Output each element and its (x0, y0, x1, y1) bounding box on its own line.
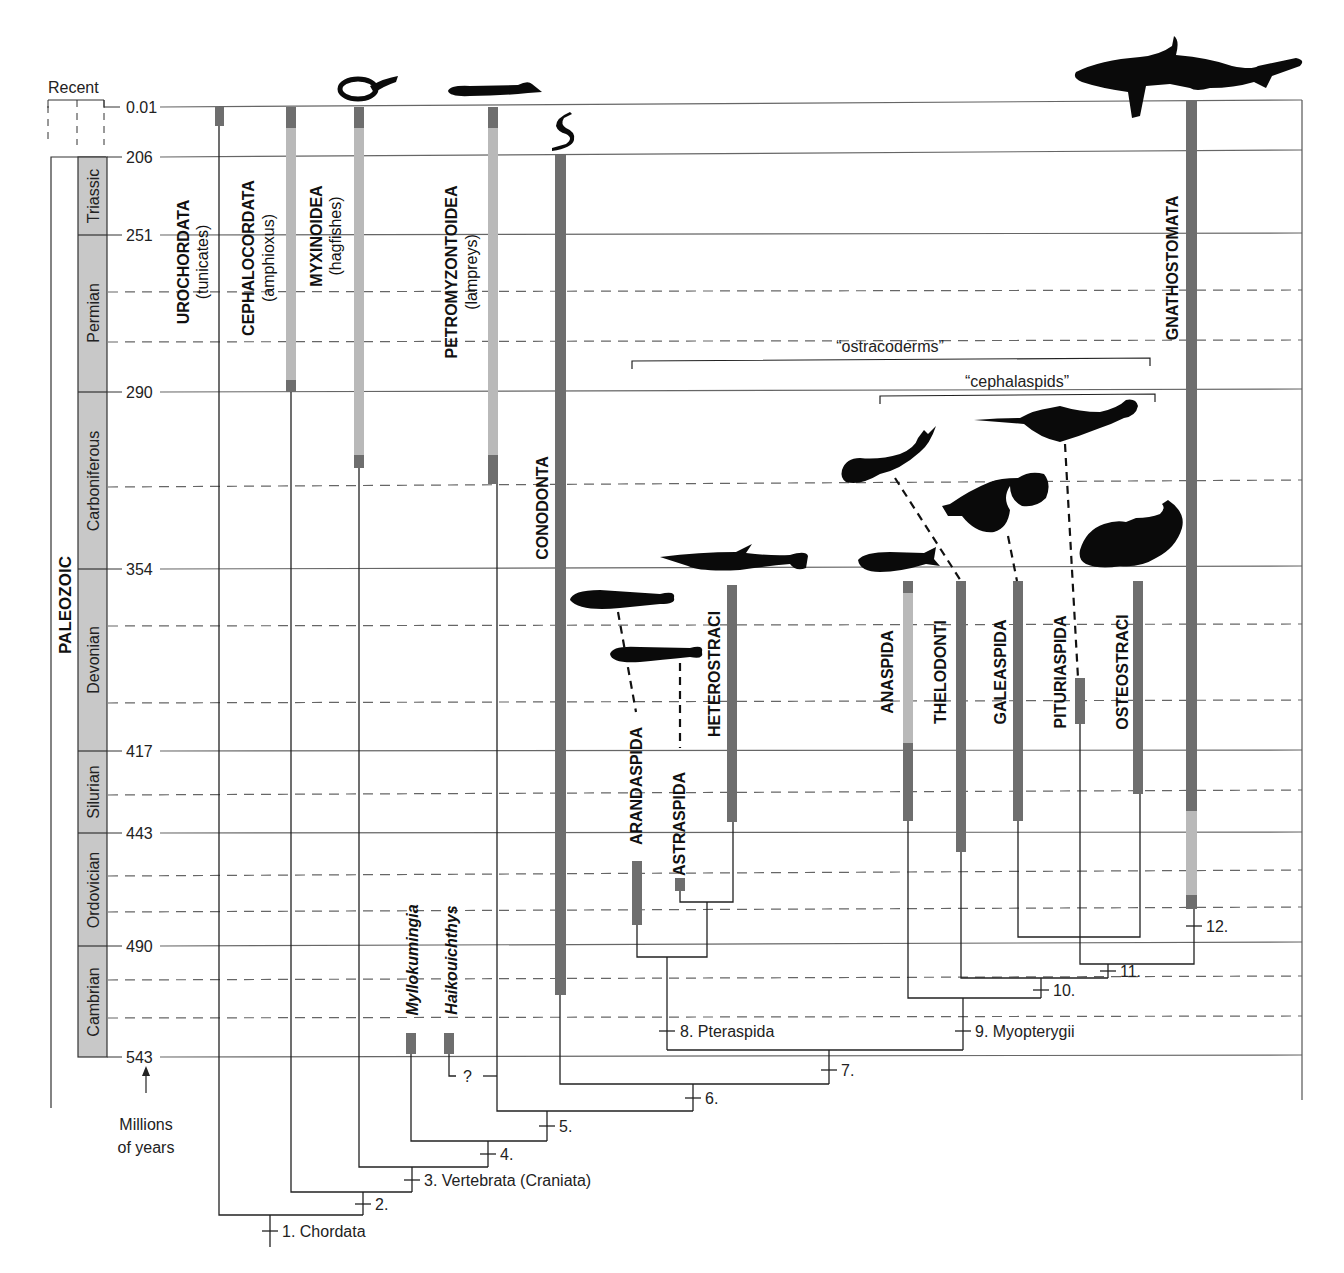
node-4-label: 4. (500, 1146, 513, 1163)
taxon-conodonta: CONODONTA (534, 456, 551, 560)
group-brackets: “ostracoderms” “cephalaspids” (632, 338, 1155, 404)
period-silurian: Silurian (85, 765, 102, 818)
conodont-silhouette-icon (552, 112, 574, 151)
period-devonian: Devonian (85, 626, 102, 694)
period-ordovician: Ordovician (85, 852, 102, 928)
thelodont-silhouette-icon (842, 426, 937, 483)
node-1-label: 1. Chordata (282, 1223, 366, 1240)
taxon-myxinoidea: MYXINOIDEA (308, 185, 325, 287)
tick-label: 543 (126, 1049, 153, 1066)
taxon-gnathostomata: GNATHOSTOMATA (1164, 195, 1181, 340)
taxon-osteostraci: OSTEOSTRACI (1114, 614, 1131, 730)
taxon-anaspida: ANASPIDA (879, 630, 896, 714)
node-2-label: 2. (375, 1196, 388, 1213)
tick-label: 206 (126, 149, 153, 166)
node-12-label: 12. (1206, 918, 1228, 935)
axis-label: Millions (119, 1116, 172, 1133)
taxon-cephalocordata: CEPHALOCORDATA (240, 180, 257, 336)
node-7-label: 7. (841, 1062, 854, 1079)
taxon-myllokumingia: Myllokumingia (404, 904, 421, 1015)
tick-label: 490 (126, 938, 153, 955)
phylogeny-figure: Recent 0.01 206 251 290 354 417 443 490 … (0, 0, 1344, 1273)
tick-label: 354 (126, 561, 153, 578)
axis-label: of years (118, 1139, 175, 1156)
tick-label: 0.01 (126, 99, 157, 116)
taxon-pituriaspida: PITURIASPIDA (1052, 615, 1069, 728)
taxon-galeaspida: GALEASPIDA (992, 619, 1009, 724)
tick-label: 417 (126, 743, 153, 760)
taxon-petromyzontoidea: PETROMYZONTOIDEA (443, 185, 460, 358)
ostracoderms-bracket (632, 358, 1150, 369)
tick-label: 251 (126, 227, 153, 244)
pituriaspid-silhouette-icon (974, 400, 1138, 442)
osteostracan-silhouette-icon (1080, 500, 1183, 568)
uncertain-marker: ? (463, 1068, 472, 1085)
taxon-petromyzontoidea-common: (lampreys) (463, 234, 480, 310)
range-bars (215, 100, 1197, 1054)
taxon-urochordata: UROCHORDATA (175, 199, 192, 324)
period-permian: Permian (85, 283, 102, 343)
arandaspid-silhouette-icon (570, 590, 674, 609)
period-carboniferous: Carboniferous (85, 431, 102, 532)
anaspid-silhouette-icon (858, 547, 940, 572)
recent-label: Recent (48, 79, 99, 96)
taxon-myxinoidea-common: (hagfishes) (327, 196, 344, 275)
taxon-astraspida: ASTRASPIDA (671, 772, 688, 876)
node-6-label: 6. (705, 1090, 718, 1107)
period-triassic: Triassic (85, 169, 102, 224)
taxon-thelodonti: THELODONTI (932, 620, 949, 724)
taxon-haikouichthys: Haikouichthys (443, 905, 460, 1014)
arrow-up-icon (142, 1066, 150, 1076)
node-8-label: 8. Pteraspida (680, 1023, 774, 1040)
taxon-arandaspida: ARANDASPIDA (628, 726, 645, 845)
period-cambrian: Cambrian (85, 967, 102, 1036)
node-11-label: 11. (1120, 963, 1141, 980)
node-ticks (262, 926, 1202, 1231)
astraspid-silhouette-icon (610, 647, 702, 663)
cephalaspids-bracket (880, 394, 1155, 404)
era-label: PALEOZOIC (56, 556, 75, 654)
node-10-label: 10. (1053, 982, 1075, 999)
ostracoderms-label: “ostracoderms” (836, 338, 944, 355)
time-scale: Recent 0.01 206 251 290 354 417 443 490 … (48, 79, 174, 1156)
node-3-label: 3. Vertebrata (Craniata) (424, 1172, 591, 1189)
heterostracan-silhouette-icon (660, 544, 808, 571)
tick-label: 290 (126, 384, 153, 401)
taxon-cephalocordata-common: (amphioxus) (260, 214, 277, 302)
tick-label: 443 (126, 825, 153, 842)
lamprey-silhouette-icon (448, 82, 542, 96)
cephalaspids-label: “cephalaspids” (965, 373, 1069, 390)
taxon-heterostraci: HETEROSTRACI (706, 611, 723, 737)
node-5-label: 5. (559, 1118, 572, 1135)
taxon-urochordata-common: (tunicates) (194, 225, 211, 300)
node-labels: 1. Chordata 2. 3. Vertebrata (Craniata) … (282, 918, 1228, 1240)
hagfish-silhouette-icon (340, 76, 398, 99)
node-9-label: 9. Myopterygii (975, 1023, 1075, 1040)
silhouette-connectors (618, 444, 1078, 748)
